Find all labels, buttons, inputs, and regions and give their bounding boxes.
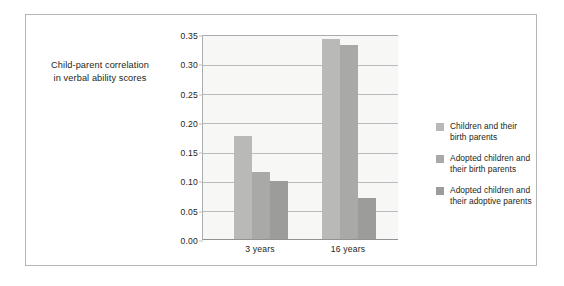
gridline — [203, 241, 398, 242]
y-tick-label: 0.00 — [180, 236, 198, 246]
legend-item[interactable]: Adopted children andtheir birth parents — [436, 153, 556, 174]
bar-layer — [204, 36, 398, 239]
x-axis-label: 16 years — [321, 244, 375, 254]
bar — [358, 198, 376, 239]
bar — [340, 45, 358, 238]
y-tick-mark — [199, 153, 203, 154]
bar — [234, 136, 252, 239]
legend-label: Adopted children andtheir adoptive paren… — [450, 185, 532, 206]
y-tick-mark — [199, 182, 203, 183]
y-tick-label: 0.05 — [180, 207, 198, 217]
figure-frame: Child-parent correlation in verbal abili… — [25, 14, 537, 266]
y-tick-label: 0.15 — [180, 148, 198, 158]
x-axis-line — [203, 239, 398, 240]
bar — [322, 39, 340, 238]
bar-group — [234, 36, 288, 239]
y-axis-title-line-2: in verbal ability scores — [40, 72, 160, 85]
y-tick-label: 0.25 — [180, 90, 198, 100]
y-tick-mark — [199, 65, 203, 66]
y-tick-label: 0.20 — [180, 119, 198, 129]
x-axis-label: 3 years — [233, 244, 287, 254]
plot-area: 0.000.050.100.150.200.250.300.35 — [202, 35, 398, 240]
y-tick-mark — [199, 241, 203, 242]
y-tick-mark — [199, 211, 203, 212]
bar — [252, 172, 270, 238]
bar-group — [322, 36, 376, 239]
y-tick-mark — [199, 94, 203, 95]
y-axis-title: Child-parent correlation in verbal abili… — [40, 59, 160, 84]
legend-item[interactable]: Children and theirbirth parents — [436, 121, 556, 142]
y-tick-label: 0.10 — [180, 177, 198, 187]
legend-swatch-icon — [436, 123, 444, 131]
chart-legend: Children and theirbirth parentsAdopted c… — [436, 121, 556, 218]
legend-swatch-icon — [436, 155, 444, 163]
legend-label: Children and theirbirth parents — [450, 121, 517, 142]
legend-swatch-icon — [436, 187, 444, 195]
legend-item[interactable]: Adopted children andtheir adoptive paren… — [436, 185, 556, 206]
y-tick-label: 0.35 — [180, 31, 198, 41]
y-axis-title-line-1: Child-parent correlation — [40, 59, 160, 72]
plot-wrapper: 0.000.050.100.150.200.250.300.35 3 years… — [202, 35, 398, 257]
y-tick-mark — [199, 36, 203, 37]
bar — [270, 181, 288, 238]
legend-label: Adopted children andtheir birth parents — [450, 153, 530, 174]
y-tick-mark — [199, 123, 203, 124]
y-tick-label: 0.30 — [180, 60, 198, 70]
